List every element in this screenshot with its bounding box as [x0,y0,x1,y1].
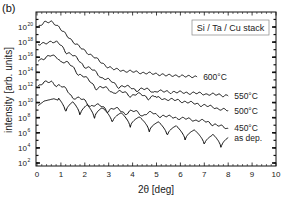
y-tick-exponent: 8 [28,112,31,118]
x-tick-label: 5 [154,170,159,179]
y-tick-exponent: 2 [28,157,31,163]
xrr-chart: (b) 012345678910 10210410610810101012101… [0,0,284,198]
x-tick-label: 0 [35,170,40,179]
legend: Si / Ta / Cu stack [192,20,269,35]
y-tick-exponent: 6 [28,127,31,133]
y-tick-label: 10 [18,68,27,77]
y-axis-label: intensity [arb. units] [3,47,14,133]
x-axis-label: 2θ [deg] [138,184,174,195]
y-tick-label: 10 [18,53,27,62]
legend-text: Si / Ta / Cu stack [197,23,265,33]
y-tick-exponent: 18 [28,36,34,42]
curve-500-c [38,55,228,111]
x-tick-label: 8 [226,170,231,179]
y-tick-exponent: 16 [28,51,34,57]
curve-550-c [38,41,228,97]
panel-label: (b) [2,2,15,14]
y-tick-exponent: 4 [28,142,31,148]
curve-label: as dep. [234,133,262,143]
y-tick-label: 10 [18,144,27,153]
x-tick-label: 3 [106,170,111,179]
y-tick-label: 10 [18,159,27,168]
x-tick-label: 7 [202,170,207,179]
x-tick-label: 1 [59,170,64,179]
x-tick-label: 6 [178,170,183,179]
curve-600-c [38,21,197,78]
x-tick-label: 9 [250,170,255,179]
curve-label: 600°C [203,72,227,82]
y-tick-exponent: 20 [28,21,34,27]
y-tick-label: 10 [18,99,27,108]
y-tick-label: 10 [18,23,27,32]
x-tick-label: 4 [130,170,135,179]
y-tick-label: 10 [18,129,27,138]
x-tick-label: 2 [83,170,88,179]
curve-label: 500°C [234,106,258,116]
y-tick-exponent: 14 [28,66,34,72]
y-tick-label: 10 [18,38,27,47]
curve-labels: 600°C550°C500°C450°Cas dep. [203,72,262,143]
y-tick-exponent: 10 [28,97,34,103]
y-tick-label: 10 [18,83,27,92]
y-tick-label: 10 [18,114,27,123]
curve-label: 550°C [234,91,258,101]
y-tick-exponent: 12 [28,81,34,87]
curves-group [38,21,228,147]
x-tick-label: 10 [272,170,281,179]
